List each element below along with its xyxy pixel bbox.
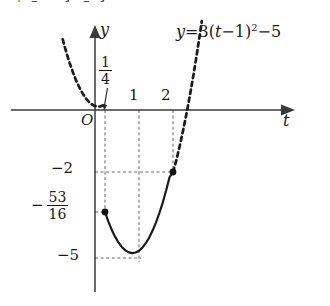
y-axis-arrowhead bbox=[90, 25, 101, 38]
equation-minus: − bbox=[221, 22, 234, 41]
fraction-sign: − bbox=[31, 198, 44, 213]
y-tick-label-neg2: −2 bbox=[51, 161, 73, 176]
equation-equals: = bbox=[185, 22, 198, 41]
fraction-denominator: 16 bbox=[47, 207, 69, 221]
marked-point-right bbox=[170, 169, 177, 176]
equation-shift: 1 bbox=[235, 22, 245, 41]
equation-lhs: y bbox=[176, 22, 185, 41]
x-axis-label: t bbox=[283, 113, 289, 129]
fraction-53-16: 53 16 bbox=[47, 190, 69, 221]
fraction-denominator: 4 bbox=[99, 72, 112, 86]
x-tick-label-1: 1 bbox=[129, 88, 139, 103]
equation-label: y=3(t−1)2−5 bbox=[176, 23, 281, 40]
quarter-tick-pointer bbox=[104, 88, 107, 107]
x-tick-label-2: 2 bbox=[161, 88, 171, 103]
parabola-chart bbox=[0, 0, 330, 306]
figure-root: ﾌ ｰ ﾆ ｲ ｰ ｲ. bbox=[0, 0, 330, 306]
marked-point-left bbox=[102, 209, 109, 216]
y-tick-label-neg5: −5 bbox=[57, 248, 79, 263]
equation-constant-sign: − bbox=[258, 22, 271, 41]
guide-lines bbox=[95, 110, 175, 262]
x-tick-label-one-quarter: 1 4 bbox=[99, 55, 112, 86]
origin-label: O bbox=[81, 113, 93, 128]
equation-constant: 5 bbox=[271, 22, 281, 41]
fraction-numerator: 1 bbox=[99, 55, 112, 69]
fraction-numerator: 53 bbox=[47, 190, 69, 204]
equation-coefficient: 3 bbox=[198, 22, 208, 41]
y-axis-label: y bbox=[100, 22, 109, 38]
fraction-one-quarter: 1 4 bbox=[99, 55, 112, 86]
y-tick-label-neg-53-16: − 53 16 bbox=[31, 190, 68, 221]
parabola-branch-right bbox=[173, 21, 202, 172]
